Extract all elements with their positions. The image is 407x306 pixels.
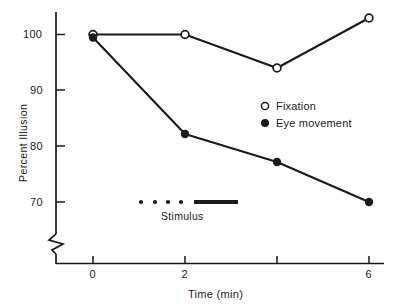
- x-tick-label-2: 2: [182, 268, 188, 280]
- y-axis-break-icon: [49, 234, 63, 254]
- chart-figure: 100 90 80 70 Percent Illusion 0 2 6 Time…: [0, 0, 407, 306]
- stimulus-dot: [166, 200, 170, 204]
- series-point-fixation: [181, 31, 189, 39]
- x-tick-label-0: 0: [90, 268, 96, 280]
- series-point-fixation: [365, 14, 373, 22]
- stimulus-label: Stimulus: [161, 210, 204, 222]
- stimulus-dot: [153, 200, 157, 204]
- stimulus-dot: [139, 200, 143, 204]
- y-tick-label-80: 80: [30, 140, 43, 152]
- y-tick-label-70: 70: [30, 196, 43, 208]
- series-point-eye-movement: [181, 130, 189, 138]
- series-point-fixation: [273, 64, 281, 72]
- legend-marker-filled-circle: [261, 119, 269, 127]
- legend-marker-open-circle: [261, 102, 268, 109]
- legend-label-eye-movement: Eye movement: [276, 117, 352, 129]
- y-tick-label-100: 100: [23, 28, 42, 40]
- series-line-fixation: [93, 18, 369, 68]
- series-point-eye-movement: [365, 198, 373, 206]
- legend-label-fixation: Fixation: [276, 100, 316, 112]
- y-axis-title: Percent Illusion: [17, 104, 29, 182]
- series-point-eye-movement: [273, 158, 281, 166]
- y-tick-label-90: 90: [30, 84, 43, 96]
- chart-plot-area: [0, 0, 407, 306]
- x-axis-title: Time (min): [188, 288, 243, 300]
- stimulus-dot: [179, 200, 183, 204]
- series-point-eye-movement: [89, 33, 97, 41]
- x-tick-label-6: 6: [366, 268, 372, 280]
